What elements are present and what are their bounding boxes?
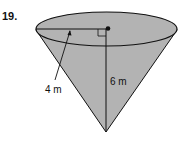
cone-diagram: 4 m 6 m [0,0,186,142]
radius-label: 4 m [45,84,62,95]
center-dot [106,26,111,31]
figure: 19. 4 m 6 m [0,0,186,142]
height-label: 6 m [110,76,127,87]
